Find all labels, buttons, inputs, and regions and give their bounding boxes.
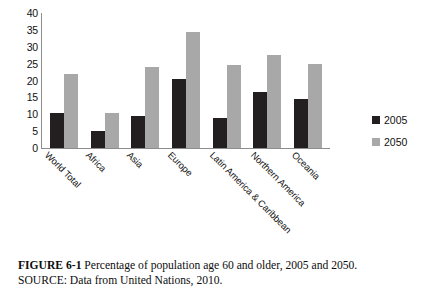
bar-chart: 4035302520151050 World TotalAfricaAsiaEu… [0,0,436,255]
x-axis-tick: Asia [126,150,146,170]
legend-item: 2050 [372,137,434,148]
legend-label: 2005 [384,115,407,126]
bar-2050 [227,65,241,148]
legend-swatch-icon [372,138,380,146]
y-axis-tick: 30 [27,42,38,53]
plot-area [41,13,330,149]
bar-group [172,13,200,148]
y-axis-tick: 25 [27,58,38,69]
y-axis-tick: 20 [27,75,38,86]
y-axis-tick: 15 [27,92,38,103]
bar-2005 [50,113,64,148]
x-axis-tick: World Total [43,150,82,189]
bar-2005 [253,92,267,148]
x-axis: World TotalAfricaAsiaEuropeLatin America… [41,150,329,250]
y-axis-tick: 10 [27,109,38,120]
y-axis-tick: 40 [27,8,38,19]
y-axis-tick: 35 [27,25,38,36]
bar-2005 [131,116,145,148]
figure-caption: FIGURE 6-1 Percentage of population age … [18,258,428,288]
bar-group [213,13,241,148]
y-axis-tick: 0 [32,143,38,154]
legend-item: 2005 [372,115,434,126]
y-axis-tick: 5 [32,126,38,137]
bars-layer [42,13,330,148]
bar-group [294,13,322,148]
bar-2005 [294,99,308,148]
bar-group [91,13,119,148]
bar-2050 [105,113,119,148]
bar-2050 [186,32,200,148]
bar-2005 [213,118,227,148]
figure-6-1: 4035302520151050 World TotalAfricaAsiaEu… [0,0,436,297]
caption-body: Percentage of population age 60 and olde… [84,259,357,272]
legend-swatch-icon [372,116,380,124]
bar-2050 [145,67,159,148]
x-axis-tick: Latin America & Caribbean [208,150,293,235]
y-axis: 4035302520151050 [14,8,38,150]
caption-line-primary: FIGURE 6-1 Percentage of population age … [18,258,428,273]
x-axis-tick: Europe [167,150,195,178]
bar-2050 [308,64,322,148]
x-axis-tick: Africa [84,150,107,173]
bar-2005 [91,131,105,148]
legend-label: 2050 [384,137,407,148]
bar-2005 [172,79,186,148]
bar-2050 [267,55,281,148]
figure-number: FIGURE 6-1 [18,259,81,272]
bar-2050 [64,74,78,148]
bar-group [50,13,78,148]
chart-legend: 20052050 [372,115,434,158]
caption-source: SOURCE: Data from United Nations, 2010. [18,273,428,288]
bar-group [131,13,159,148]
x-axis-tick: Oceania [290,150,321,181]
bar-group [253,13,281,148]
